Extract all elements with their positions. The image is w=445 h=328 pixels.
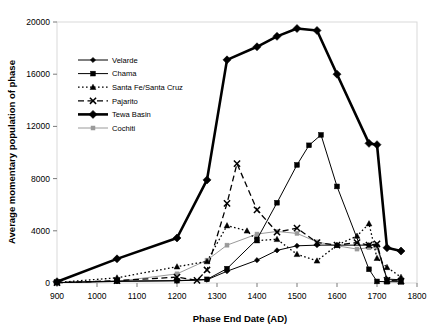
- data-point-marker: [335, 184, 340, 189]
- legend-label-velarde: Velarde: [112, 56, 138, 65]
- data-point-marker: [225, 243, 229, 247]
- y-axis-ticks: 040008000120001600020000: [26, 17, 57, 288]
- data-point-marker: [355, 247, 359, 251]
- x-axis-title: Phase End Date (AD): [193, 313, 288, 324]
- x-tick-label: 1600: [328, 291, 347, 301]
- x-tick-label: 1800: [408, 291, 427, 301]
- chart-svg: 040008000120001600020000 900100011001200…: [0, 0, 445, 328]
- x-tick-label: 1700: [368, 291, 387, 301]
- legend-label-pajarito: Pajarito: [112, 97, 138, 106]
- data-point-marker: [205, 277, 210, 282]
- x-axis-ticks: 900100011001200130014001500160017001800: [50, 283, 427, 301]
- data-point-marker: [91, 71, 96, 76]
- x-tick-label: 1500: [288, 291, 307, 301]
- data-point-marker: [275, 200, 280, 205]
- legend-label-cochiti: Cochiti: [112, 124, 136, 133]
- data-point-marker: [255, 232, 259, 236]
- data-point-marker: [385, 279, 390, 284]
- data-point-marker: [319, 132, 324, 137]
- data-point-marker: [255, 237, 260, 242]
- x-tick-label: 900: [50, 291, 64, 301]
- legend-label-chama: Chama: [112, 69, 137, 78]
- y-tick-label: 4000: [31, 226, 50, 236]
- y-tick-label: 8000: [31, 174, 50, 184]
- legend-label-tewa-basin: Tewa Basin: [112, 110, 151, 119]
- data-point-marker: [295, 231, 299, 235]
- chart-figure: 040008000120001600020000 900100011001200…: [0, 0, 445, 328]
- x-tick-label: 1200: [168, 291, 187, 301]
- y-tick-label: 16000: [26, 69, 50, 79]
- x-tick-label: 1000: [88, 291, 107, 301]
- data-point-marker: [91, 126, 95, 130]
- data-point-marker: [307, 143, 312, 148]
- y-tick-label: 20000: [26, 17, 50, 27]
- data-point-marker: [295, 162, 300, 167]
- y-tick-label: 0: [45, 278, 50, 288]
- data-point-marker: [225, 266, 230, 271]
- x-tick-label: 1100: [128, 291, 147, 301]
- data-point-marker: [367, 267, 372, 272]
- data-point-marker: [399, 279, 404, 284]
- data-point-marker: [175, 278, 180, 283]
- legend-label-santa-fe-santa-cruz: Santa Fe/Santa Cruz: [112, 83, 183, 92]
- y-axis-title: Average momentary population of phase: [6, 60, 17, 244]
- data-point-marker: [375, 279, 380, 284]
- x-tick-label: 1400: [248, 291, 267, 301]
- y-tick-label: 12000: [26, 121, 50, 131]
- data-point-marker: [115, 279, 120, 284]
- x-tick-label: 1300: [208, 291, 227, 301]
